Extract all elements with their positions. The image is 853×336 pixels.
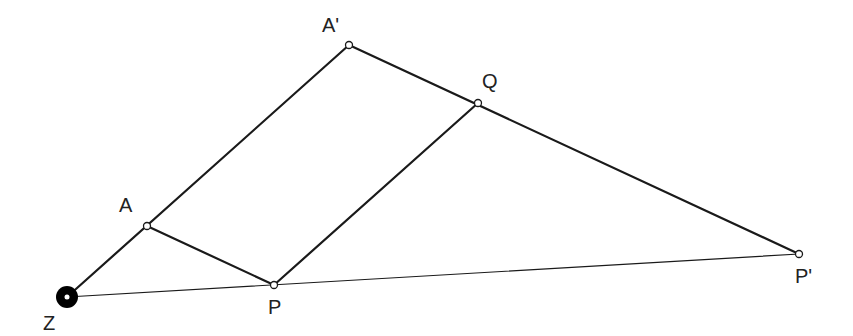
label-q: Q (482, 70, 498, 92)
segment-z-p-prime (67, 254, 799, 297)
center-point-hole (65, 295, 70, 300)
point-p-prime (796, 251, 803, 258)
point-q (475, 100, 482, 107)
segment-z-a-prime (67, 45, 349, 297)
labels: ZAA'QPP' (43, 14, 812, 334)
segment-a-prime-p-prime (349, 45, 799, 254)
homothety-diagram: ZAA'QPP' (0, 0, 853, 336)
point-a (144, 223, 151, 230)
point-a-prime (346, 42, 353, 49)
label-z: Z (43, 312, 55, 334)
segment-a-p (147, 226, 274, 285)
label-a: A (119, 194, 133, 216)
label-p-prime: P' (795, 265, 812, 287)
point-p (271, 282, 278, 289)
label-p: P (268, 296, 281, 318)
segments (67, 45, 799, 297)
segment-p-q (274, 103, 478, 285)
label-a-prime: A' (322, 14, 339, 36)
